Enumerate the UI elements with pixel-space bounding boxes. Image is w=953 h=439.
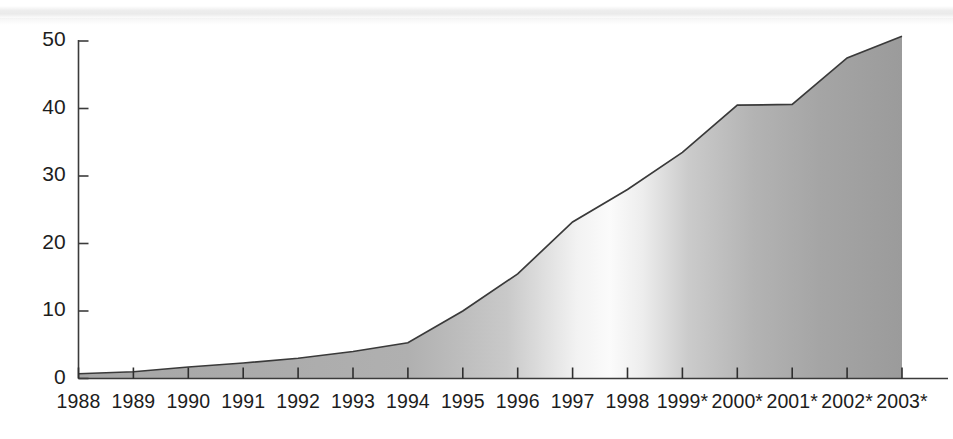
y-axis-tick-label: 40 [22, 95, 66, 119]
y-axis-tick-label: 10 [22, 297, 66, 321]
chart-page: 01020304050 1988198919901991199219931994… [0, 0, 953, 439]
area-chart [0, 0, 953, 439]
y-axis-tick-label: 50 [22, 27, 66, 51]
x-axis-tick-label: 2003* [863, 390, 941, 413]
y-axis-ticks [79, 41, 89, 379]
area-fill-group [79, 36, 903, 378]
y-axis-tick-label: 0 [22, 365, 66, 389]
y-axis-tick-label: 30 [22, 162, 66, 186]
area-fill [79, 36, 903, 378]
y-axis-tick-label: 20 [22, 230, 66, 254]
